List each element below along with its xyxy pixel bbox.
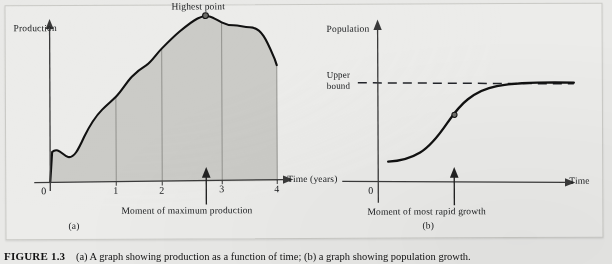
panel-a-svg <box>5 5 306 239</box>
panel-a-tick-2: 2 <box>159 186 164 197</box>
figure-caption-line: FIGURE 1.3 (a) A graph showing productio… <box>4 250 471 262</box>
upper-bound-label-line2: bound <box>327 81 350 92</box>
gridline-x2 <box>162 49 163 182</box>
panel-a-origin-label: 0 <box>41 186 46 197</box>
panel-a-tag: (a) <box>68 221 79 232</box>
highest-point-marker <box>203 13 209 19</box>
figure-caption-text: (a) A graph showing production as a func… <box>76 251 471 262</box>
panel-b-y-axis-label: Population <box>327 24 370 35</box>
panel-b-tag: (b) <box>422 220 434 231</box>
panel-a-tick-3: 3 <box>219 184 224 195</box>
figure-caption: FIGURE 1.3 (a) A graph showing productio… <box>4 250 604 264</box>
figure-panel: Production Time (years) Highest point 0 … <box>4 3 603 241</box>
figure-caption-label: FIGURE 1.3 <box>4 250 65 262</box>
panel-a-y-axis <box>50 28 51 191</box>
panel-a-y-axis-label: Production <box>14 23 57 34</box>
production-area-fill <box>50 16 278 182</box>
panel-b-origin-label: 0 <box>368 186 373 197</box>
chart-panel-a: Production Time (years) Highest point 0 … <box>5 5 306 239</box>
panel-a-tick-4: 4 <box>274 184 279 195</box>
inflection-point-marker <box>452 112 457 117</box>
chart-panel-b: Population Time Upper bound 0 Moment of … <box>301 4 602 238</box>
panel-b-svg <box>301 4 602 238</box>
highest-point-label: Highest point <box>171 1 224 12</box>
panel-a-tick-1: 1 <box>113 186 118 197</box>
max-production-annotation: Moment of maximum production <box>121 205 252 216</box>
upper-bound-label-line1: Upper <box>327 70 350 81</box>
panel-b-y-axis <box>378 29 379 203</box>
rapid-growth-annotation: Moment of most rapid growth <box>367 206 486 217</box>
gridline-x4 <box>277 65 278 181</box>
population-curve <box>388 82 574 161</box>
panel-b-x-axis-label: Time <box>569 176 589 187</box>
